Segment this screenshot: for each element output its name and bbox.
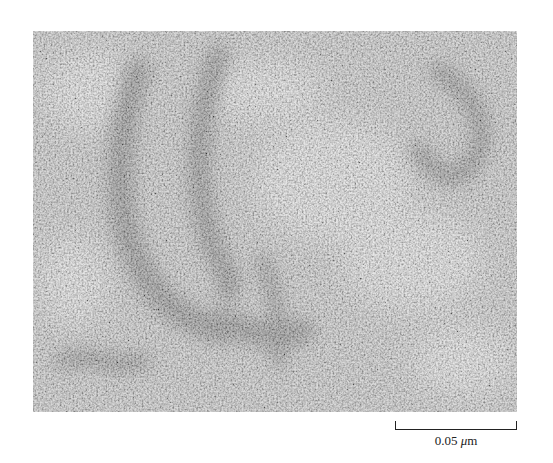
scale-unit-suffix: m (467, 433, 477, 448)
micrograph-image (33, 31, 517, 412)
scale-bar-label: 0.05 μm (395, 433, 517, 449)
electron-micrograph (33, 31, 517, 412)
scale-value: 0.05 (435, 433, 458, 448)
scale-bar (395, 421, 517, 430)
